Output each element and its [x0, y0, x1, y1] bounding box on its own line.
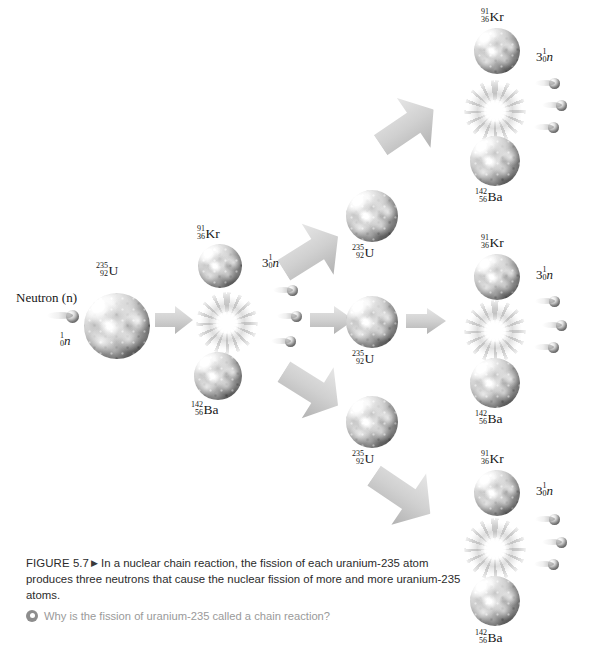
barium-142-nucleus-gen1	[194, 352, 242, 400]
emitted-neutron-gen3-upper-1	[549, 78, 560, 89]
emitted-neutron-gen3-lower-3	[548, 559, 559, 570]
uranium-235-nucleus-gen2-lower	[346, 396, 398, 448]
arrow-gen3-middle	[406, 307, 446, 335]
three-neutrons-label-gen3-lower: 310n	[536, 482, 553, 499]
emitted-neutron-gen3-lower-1	[549, 514, 560, 525]
krypton-91-label-gen3-middle: 9136Kr	[481, 234, 504, 251]
barium-142-nucleus-gen3-middle	[470, 358, 520, 408]
figure-question-row: Why is the fission of uranium-235 called…	[26, 609, 471, 623]
krypton-91-label-gen3-lower: 9136Kr	[481, 450, 504, 467]
krypton-91-nucleus-gen3-middle	[474, 254, 520, 300]
uranium-235-label-gen1: 23592U	[96, 262, 118, 279]
krypton-91-label-gen1: 9136Kr	[197, 225, 220, 242]
emitted-neutron-gen3-middle-3	[548, 342, 559, 353]
fission-burst-core-gen3-lower	[484, 538, 506, 560]
barium-142-label-gen3-middle: 14256Ba	[475, 410, 503, 427]
figure-question-text: Why is the fission of uranium-235 called…	[44, 609, 330, 623]
uranium-235-nucleus-gen2-upper	[346, 190, 398, 242]
three-neutrons-label-gen3-upper: 310n	[536, 48, 553, 65]
arrow-gen1-to-fission	[155, 305, 193, 335]
three-neutrons-label-gen3-middle: 310n	[536, 266, 553, 283]
barium-142-nucleus-gen3-lower	[470, 576, 520, 626]
emitted-neutron-gen3-lower-2	[556, 537, 567, 548]
fission-burst-core-gen1	[216, 312, 238, 334]
figure-caption: FIGURE 5.7▶In a nuclear chain reaction, …	[26, 556, 471, 603]
krypton-91-nucleus-gen3-upper	[474, 28, 520, 74]
incoming-neutron	[66, 310, 79, 323]
krypton-91-nucleus-gen3-lower	[474, 470, 520, 516]
uranium-235-label-gen2-middle: 23592U	[352, 350, 374, 367]
target-dot-icon	[26, 610, 38, 622]
fission-burst-core-gen3-upper	[484, 100, 506, 122]
emitted-neutron-gen3-middle-1	[549, 296, 560, 307]
caption-triangle-icon: ▶	[91, 556, 98, 571]
uranium-235-nucleus-gen1	[84, 293, 150, 359]
page-top-bleed	[150, 0, 480, 4]
barium-142-label-gen3-lower: 14256Ba	[475, 629, 503, 646]
uranium-235-label-gen2-lower: 23592U	[352, 450, 374, 467]
barium-142-label-gen1: 14256Ba	[191, 401, 219, 418]
emitted-neutron-gen3-upper-3	[548, 122, 559, 133]
fission-burst-core-gen3-middle	[484, 320, 506, 342]
emitted-neutron-gen3-middle-2	[556, 320, 567, 331]
krypton-91-label-gen3-upper: 9136Kr	[481, 8, 504, 25]
figure-number: FIGURE 5.7	[26, 557, 89, 569]
barium-142-nucleus-gen3-upper	[470, 136, 520, 186]
nuclear-chain-reaction-figure: Neutron (n) 10n 23592U 9136Kr 14256Ba	[0, 0, 590, 652]
barium-142-label-gen3-upper: 14256Ba	[475, 188, 503, 205]
emitted-neutron-gen1-2	[291, 311, 302, 322]
uranium-235-nucleus-gen2-middle	[346, 296, 398, 348]
emitted-neutron-gen1-3	[285, 336, 296, 347]
emitted-neutron-gen3-upper-2	[556, 100, 567, 111]
arrow-gen3-upper	[357, 75, 457, 180]
krypton-91-nucleus-gen1	[198, 244, 242, 288]
uranium-235-label-gen2-upper: 23592U	[352, 244, 374, 261]
figure-caption-block: FIGURE 5.7▶In a nuclear chain reaction, …	[26, 556, 471, 623]
incoming-neutron-isotope-label: 10n	[60, 332, 71, 349]
neutron-word-label: Neutron (n)	[16, 290, 77, 306]
